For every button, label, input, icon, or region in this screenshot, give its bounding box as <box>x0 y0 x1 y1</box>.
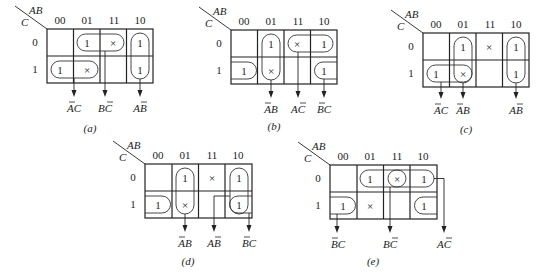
cell-r1-c00: 1 <box>433 68 439 80</box>
svg-text:BC: BC <box>98 102 113 114</box>
row-label-1: 1 <box>130 198 136 210</box>
svg-text:BC: BC <box>331 238 346 250</box>
svg-text:BC: BC <box>317 103 332 115</box>
svg-text:AC: AC <box>433 104 449 116</box>
col-var-label: AB <box>126 139 141 151</box>
cell-r0-c01: 1 <box>367 173 373 185</box>
row-label-0: 0 <box>315 172 321 184</box>
term-label: BC <box>383 238 398 250</box>
svg-text:AC: AC <box>436 238 452 250</box>
cell-r0-c11: × <box>486 41 492 53</box>
kmap-b: AB C 00 01 11 10 0 1 1 × 1 1 × 1 AB <box>199 5 337 133</box>
cell-r0-c01: 1 <box>268 38 274 50</box>
col-label-10: 10 <box>233 149 245 161</box>
cell-r1-c01: × <box>84 64 90 76</box>
cell-r1-c01: × <box>460 68 466 80</box>
cell-r1-c10: 1 <box>513 68 519 80</box>
cell-r1-c00: 1 <box>155 199 161 211</box>
row-var-label: C <box>119 151 127 163</box>
row-label-1: 1 <box>32 63 38 75</box>
col-label-01: 01 <box>82 14 93 26</box>
caption: (a) <box>84 122 97 135</box>
col-label-00: 00 <box>55 14 67 26</box>
term-label: AC <box>66 102 82 114</box>
row-label-0: 0 <box>130 171 136 183</box>
row-var-label: C <box>205 17 213 29</box>
cell-r0-c10: 1 <box>421 173 427 185</box>
col-label-01: 01 <box>266 15 277 27</box>
term-label: BC <box>98 102 113 114</box>
svg-text:AB: AB <box>455 104 470 116</box>
col-label-11: 11 <box>109 14 120 26</box>
col-label-11: 11 <box>485 18 496 30</box>
cell-r1-c10: 1 <box>321 65 327 77</box>
cell-r0-c10: 1 <box>137 37 143 49</box>
col-var-label: AB <box>404 8 419 20</box>
svg-text:AC: AC <box>290 103 306 115</box>
col-label-11: 11 <box>293 15 304 27</box>
col-label-01: 01 <box>458 18 469 30</box>
col-label-10: 10 <box>135 14 147 26</box>
kmap-a: AB C 00 01 11 10 0 1 1 × 1 1 × 1 AC <box>15 4 153 135</box>
row-var-label: C <box>304 152 312 164</box>
term-label: AB <box>455 104 470 116</box>
cell-r0-c01: 1 <box>84 37 90 49</box>
col-var-label: AB <box>28 4 43 16</box>
term-label: BC <box>331 238 346 250</box>
col-label-01: 01 <box>365 150 376 162</box>
cell-r0-c11: × <box>110 37 116 49</box>
term-label: BC <box>242 237 257 249</box>
cell-r0-c11: × <box>294 38 300 50</box>
col-label-10: 10 <box>319 15 331 27</box>
row-label-1: 1 <box>408 67 414 79</box>
caption: (e) <box>367 255 380 268</box>
cell-r1-c10: 1 <box>236 199 242 211</box>
cell-r1-c01: × <box>268 65 274 77</box>
col-label-11: 11 <box>392 150 403 162</box>
svg-text:BC: BC <box>242 237 257 249</box>
term-label: AC <box>290 103 306 115</box>
term-label: AC <box>436 238 452 250</box>
cell-r0-c10: 1 <box>236 172 242 184</box>
col-label-00: 00 <box>431 18 443 30</box>
row-var-label: C <box>397 20 405 32</box>
term-label: AB <box>206 237 221 249</box>
caption: (b) <box>268 120 281 133</box>
cell-r0-c10: 1 <box>513 41 519 53</box>
cell-r0-c01: 1 <box>460 41 466 53</box>
svg-text:AB: AB <box>263 103 278 115</box>
term-label: AB <box>508 104 523 116</box>
row-label-1: 1 <box>216 64 222 76</box>
col-label-00: 00 <box>338 150 350 162</box>
caption: (c) <box>460 123 473 136</box>
kmap-c: AB C 00 01 11 10 0 1 1 × 1 1 × 1 AC AB <box>391 8 529 136</box>
col-var-label: AB <box>212 5 227 17</box>
row-label-0: 0 <box>216 37 222 49</box>
col-label-10: 10 <box>418 150 430 162</box>
cell-r0-c01: 1 <box>182 172 188 184</box>
svg-text:AB: AB <box>177 237 192 249</box>
col-var-label: AB <box>311 140 326 152</box>
svg-text:AB: AB <box>508 104 523 116</box>
cell-r1-c10: 1 <box>137 64 143 76</box>
col-label-11: 11 <box>207 149 218 161</box>
col-label-00: 00 <box>153 149 165 161</box>
row-label-0: 0 <box>408 40 414 52</box>
cell-r0-c10: 1 <box>321 38 327 50</box>
cell-r1-c01: × <box>182 199 188 211</box>
kmap-e: AB C 00 01 11 10 0 1 1 × 1 1 × 1 BC <box>298 140 452 268</box>
col-label-01: 01 <box>180 149 191 161</box>
svg-text:AC: AC <box>66 102 82 114</box>
term-label: AB <box>177 237 192 249</box>
row-label-1: 1 <box>315 199 321 211</box>
term-label: BC <box>317 103 332 115</box>
svg-text:AB: AB <box>132 102 147 114</box>
term-label: AC <box>433 104 449 116</box>
row-label-0: 0 <box>32 36 38 48</box>
kmap-figure: AB C 00 01 11 10 0 1 1 × 1 1 × 1 AC <box>0 0 544 278</box>
cell-r1-c10: 1 <box>421 200 427 212</box>
col-label-10: 10 <box>511 18 523 30</box>
svg-text:AB: AB <box>206 237 221 249</box>
cell-r0-c11: × <box>394 173 400 185</box>
cell-r0-c11: × <box>209 172 215 184</box>
